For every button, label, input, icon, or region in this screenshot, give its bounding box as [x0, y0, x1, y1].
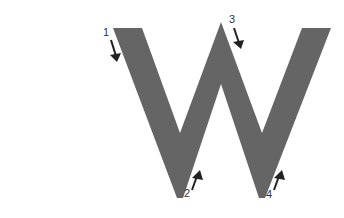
letter-w-shape [0, 0, 344, 218]
step-label-1: 1 [103, 27, 109, 38]
arrow-up-icon [192, 170, 203, 190]
arrow-down-icon [233, 28, 244, 49]
w-letter-stroke [113, 22, 331, 198]
step-label-4: 4 [266, 189, 272, 200]
step-label-3: 3 [229, 14, 235, 25]
arrow-up-icon [274, 170, 285, 190]
step-label-2: 2 [184, 188, 190, 199]
